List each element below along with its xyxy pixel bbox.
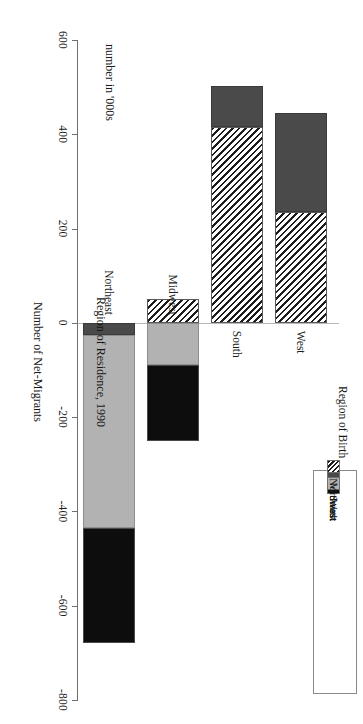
axis-tick <box>72 134 78 135</box>
bar-south <box>211 0 263 724</box>
rotated-figure: West South Midwest Northeast 6004002000-… <box>0 0 363 724</box>
bar-segment-northeast-midwest <box>83 323 135 335</box>
bar-segment-midwest-west <box>147 365 199 440</box>
axis-tick-label: -400 <box>57 500 69 522</box>
category-label-south: South <box>231 331 243 358</box>
axis-tick <box>72 417 78 418</box>
axis-tick <box>72 511 78 512</box>
bar-segment-south-northeast <box>211 127 263 323</box>
value-axis-title: Number of Net-Migrants <box>30 0 45 724</box>
legend-item-northeast[interactable]: Northeast <box>319 471 349 521</box>
axis-tick <box>72 229 78 230</box>
legend-label-northeast: Northeast <box>328 478 340 521</box>
plot-area: West South Midwest Northeast 6004002000-… <box>0 0 363 724</box>
axis-tick-label: -200 <box>57 406 69 428</box>
category-label-midwest: Midwest <box>167 275 179 315</box>
chart-canvas: West South Midwest Northeast 6004002000-… <box>0 0 363 724</box>
axis-tick <box>72 40 78 41</box>
axis-tick <box>72 606 78 607</box>
legend-box: West South Midwest Northeast <box>313 470 357 694</box>
bar-midwest <box>147 0 199 724</box>
axis-tick-label: -800 <box>57 689 69 711</box>
axis-tick-label: 600 <box>57 31 69 49</box>
bar-segment-northeast-south <box>83 335 135 528</box>
unit-label: number in '000s <box>102 44 117 121</box>
bar-segment-west-northeast <box>275 212 327 323</box>
value-axis-line <box>77 40 78 700</box>
legend-title: Region of Birth <box>337 386 349 458</box>
category-label-west: West <box>295 331 307 354</box>
bar-segment-midwest-south <box>147 323 199 365</box>
bar-segment-south-midwest <box>211 86 263 127</box>
axis-tick <box>72 700 78 701</box>
axis-tick <box>72 323 78 324</box>
bar-segment-west-midwest <box>275 113 327 212</box>
category-label-northeast: Northeast <box>103 270 115 315</box>
legend-swatch-northeast-icon <box>328 460 341 473</box>
axis-tick-label: -600 <box>57 595 69 617</box>
axis-tick-label: 400 <box>57 125 69 143</box>
axis-tick-label: 200 <box>57 220 69 238</box>
bar-segment-northeast-west <box>83 528 135 644</box>
axis-tick-label: 0 <box>57 320 69 326</box>
